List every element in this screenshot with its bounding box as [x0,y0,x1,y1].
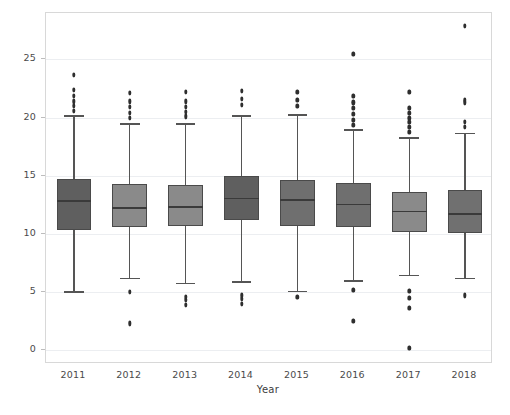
y-tick-label-10: 10 [10,227,36,238]
x-tick-label-2017: 2017 [396,369,421,380]
median-line-2018 [448,213,483,215]
whisker-cap-lower-2018 [455,278,474,279]
whisker-cap-upper-2018 [455,133,474,134]
x-tick-label-2011: 2011 [60,369,85,380]
y-tick-label-25: 25 [10,52,36,63]
x-tick-label-2013: 2013 [172,369,197,380]
y-tick-label-15: 15 [10,169,36,180]
figure-canvas: Birth Rates 0510152025 20112012201320142… [0,0,510,415]
y-tick-label-0: 0 [10,343,36,354]
box-2018 [448,190,483,233]
outlier-point-2018-0 [463,293,466,298]
x-tick-label-2014: 2014 [228,369,253,380]
plot-area [45,12,492,363]
x-tick-label-2018: 2018 [452,369,477,380]
outlier-point-2018-2 [463,120,466,125]
x-tick-label-2016: 2016 [340,369,365,380]
x-axis-label: Year [257,384,279,395]
outlier-point-2018-1 [463,124,466,129]
outlier-point-2018-5 [463,23,466,28]
boxplot-2018 [46,13,491,362]
x-tick-label-2012: 2012 [116,369,141,380]
figure-caption [0,408,510,415]
y-tick-label-5: 5 [10,285,36,296]
y-tick-label-20: 20 [10,111,36,122]
x-tick-label-2015: 2015 [284,369,309,380]
